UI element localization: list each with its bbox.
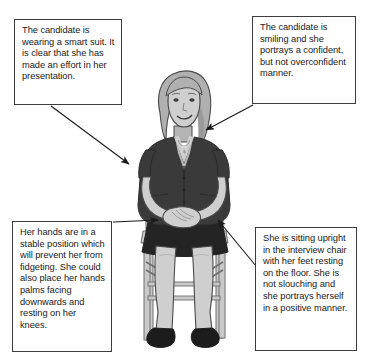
shoes xyxy=(147,328,219,347)
diagram-canvas: The candidate is wearing a smart suit. I… xyxy=(0,0,368,360)
callout-suit: The candidate is wearing a smart suit. I… xyxy=(14,19,122,105)
callout-posture: She is sitting upright in the interview … xyxy=(255,227,357,351)
legs xyxy=(155,246,213,330)
face xyxy=(166,77,202,127)
clasped-hands xyxy=(163,207,201,228)
callout-hands: Her hands are in a stable position which… xyxy=(12,221,112,352)
callout-smile: The candidate is smiling and she portray… xyxy=(252,16,356,104)
